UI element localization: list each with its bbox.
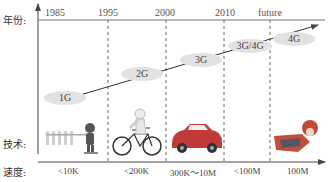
year-row-label: 年份: (3, 12, 26, 27)
year-2000: 2000 (155, 7, 175, 18)
car-icon (172, 124, 222, 153)
speed-3g-4g: <100M (234, 166, 261, 176)
speed-2g: <200K (124, 166, 149, 176)
generation-4g: 4G (273, 32, 315, 46)
year-2010: 2010 (215, 7, 235, 18)
generation-1g: 1G (44, 91, 86, 105)
flying-superhero-icon (274, 120, 318, 152)
generation-3g: 3G (180, 53, 222, 67)
speed-4g: 100M (287, 166, 309, 176)
technology-row-label: 技术: (3, 136, 26, 151)
generation-3g-4g: 3G/4G (228, 39, 272, 53)
generation-2g: 2G (121, 67, 163, 81)
speed-row-label: 速度: (3, 164, 26, 179)
year-1985: 1985 (45, 7, 65, 18)
speed-1g: <10K (58, 166, 79, 176)
bicycle-rider-icon (113, 109, 161, 155)
walking-people-icon (46, 123, 99, 154)
year-1995: 1995 (98, 7, 118, 18)
year-future: future (258, 7, 282, 18)
diagram-lines (0, 0, 333, 182)
speed-3g: 300K～10M (170, 166, 216, 179)
